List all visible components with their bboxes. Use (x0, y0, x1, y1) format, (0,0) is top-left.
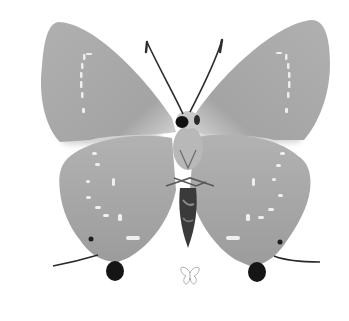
butterfly-photo (0, 0, 349, 321)
butterfly-outline-icon (181, 267, 199, 284)
right-forewing (190, 20, 330, 140)
right-hindwing (190, 135, 320, 282)
left-forewing (41, 22, 176, 142)
left-hindwing (53, 136, 176, 281)
